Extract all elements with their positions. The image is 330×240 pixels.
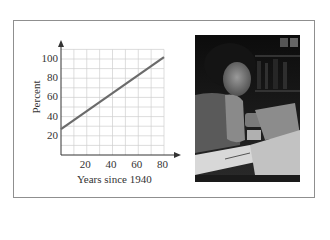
photo-woman-studying — [195, 35, 300, 182]
x-tick-label: 20 — [80, 159, 91, 170]
y-tick-label: 100 — [36, 53, 58, 64]
chart-grid — [61, 49, 164, 155]
x-axis-label: Years since 1940 — [77, 173, 152, 185]
x-tick-label: 40 — [106, 159, 117, 170]
photo-illustration — [195, 35, 300, 182]
x-tick-label: 80 — [157, 159, 168, 170]
x-tick-label: 60 — [131, 159, 142, 170]
y-axis-label: Percent — [30, 77, 42, 117]
y-tick-label: 20 — [36, 130, 58, 141]
y-axis-arrow-icon — [58, 40, 64, 47]
x-axis-arrow-icon — [174, 152, 181, 158]
